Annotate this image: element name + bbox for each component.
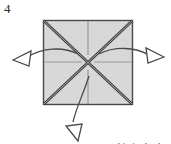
- unfold-arrow-left-head: [13, 51, 31, 66]
- step-caption: This is the l Unfold on t: [112, 113, 171, 144]
- unfold-arrow-right-head: [146, 48, 164, 63]
- unfold-arrow-down-head: [66, 124, 82, 141]
- origami-step-figure: 4 This is the l Unfold on t: [0, 0, 171, 144]
- step-caption-line-1: This is the l: [112, 140, 171, 144]
